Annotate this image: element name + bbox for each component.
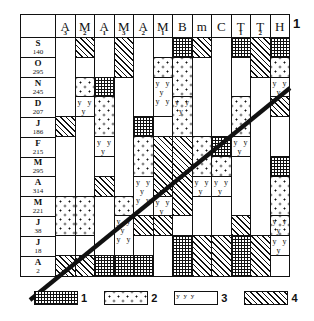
column-segment-grid: [212, 137, 231, 157]
row-label-value: 38: [35, 228, 42, 235]
column-segment-hatch: [232, 216, 251, 236]
column-segment-hatch: [271, 97, 290, 117]
column-header-m2[interactable]: M2: [76, 15, 96, 37]
column-segment-hatch: [212, 236, 231, 276]
column-segment-hatch: [76, 38, 95, 58]
row-label-letter: D: [35, 99, 42, 108]
data-column-m[interactable]: [193, 38, 213, 276]
column-header-m1[interactable]: M1: [154, 15, 174, 37]
column-segment-grid: [232, 236, 251, 276]
legend: 1234: [34, 288, 286, 308]
column-segment-grid: [232, 38, 251, 58]
data-column-a1[interactable]: [95, 38, 115, 276]
column-segment-dots: [212, 157, 231, 177]
data-column-m2[interactable]: [76, 38, 96, 276]
row-label-1[interactable]: O295: [21, 58, 55, 78]
column-header-b[interactable]: B: [173, 15, 193, 37]
row-label-2[interactable]: N245: [21, 78, 55, 98]
row-label-5[interactable]: F215: [21, 138, 55, 158]
data-column-c[interactable]: [212, 38, 232, 276]
column-segment-grid: [271, 38, 290, 58]
column-segment-hatch: [173, 137, 192, 216]
column-header-m[interactable]: m: [193, 15, 213, 37]
stratigraphic-chart: A3M2A1M3A2M1BmCT1T2H S140O295N245D207J18…: [20, 14, 290, 277]
data-column-m1[interactable]: [154, 38, 174, 276]
column-segment-hatch: [251, 236, 270, 276]
column-header-label: H: [275, 20, 284, 33]
column-segment-hatch: [154, 216, 173, 236]
column-segment-y: [76, 97, 95, 117]
column-segment-dots: [173, 58, 192, 98]
row-label-6[interactable]: M295: [21, 158, 55, 178]
data-column-h[interactable]: [271, 38, 290, 276]
row-label-8[interactable]: M221: [21, 197, 55, 217]
column-header-subscript: 3: [64, 30, 68, 37]
legend-swatch-hatch: [244, 291, 288, 305]
column-segment-blank: [95, 197, 114, 257]
legend-item-4: 4: [244, 291, 297, 305]
column-segment-ydots: [173, 97, 192, 137]
column-segment-y: [115, 216, 134, 256]
row-label-letter: J: [36, 238, 41, 247]
row-label-letter: N: [35, 79, 42, 88]
column-segment-blank: [115, 78, 134, 197]
data-column-a2[interactable]: [134, 38, 154, 276]
row-label-4[interactable]: J186: [21, 118, 55, 138]
column-segment-dots: [154, 58, 173, 78]
column-segment-blank: [232, 58, 251, 98]
column-segment-y: [134, 177, 153, 217]
legend-item-2: 2: [104, 291, 157, 305]
column-segment-y: [154, 78, 173, 118]
column-header-a2[interactable]: A2: [134, 15, 154, 37]
column-header-subscript: 2: [259, 30, 263, 37]
row-label-value: 245: [33, 89, 44, 96]
row-label-letter: A: [35, 178, 42, 187]
legend-number: 2: [151, 292, 157, 304]
row-label-value: 140: [33, 49, 44, 56]
column-header-c[interactable]: C: [212, 15, 232, 37]
column-header-subscript: 2: [83, 30, 87, 37]
column-segment-hatch: [76, 256, 95, 276]
row-label-10[interactable]: J18: [21, 237, 55, 257]
column-segment-blank: [134, 236, 153, 256]
column-header-m3[interactable]: M3: [115, 15, 135, 37]
column-header-row: A3M2A1M3A2M1BmCT1T2H: [20, 14, 290, 38]
row-label-letter: M: [34, 158, 43, 167]
data-column-a3[interactable]: [56, 38, 76, 276]
legend-item-3: 3: [174, 291, 227, 305]
row-label-value: 295: [33, 69, 44, 76]
column-segment-grid: [271, 157, 290, 177]
column-segment-blank: [56, 236, 75, 256]
column-header-h[interactable]: H: [271, 15, 290, 37]
header-corner-cell: [21, 15, 56, 37]
row-label-0[interactable]: S140: [21, 38, 55, 58]
column-segment-dots: [76, 197, 95, 237]
column-segment-blank: [95, 38, 114, 78]
column-segment-blank: [193, 58, 212, 137]
row-label-7[interactable]: A314: [21, 177, 55, 197]
column-segment-blank: [154, 38, 173, 58]
legend-item-1: 1: [34, 291, 87, 305]
legend-number: 4: [291, 292, 297, 304]
data-column-t2[interactable]: [251, 38, 271, 276]
data-column-t1[interactable]: [232, 38, 252, 276]
column-segment-hatch: [154, 137, 173, 197]
row-label-9[interactable]: J38: [21, 217, 55, 237]
column-header-a1[interactable]: A1: [95, 15, 115, 37]
data-column-b[interactable]: [173, 38, 193, 276]
chart-body: S140O295N245D207J186F215M295A314M221J38J…: [20, 38, 290, 277]
data-column-m3[interactable]: [115, 38, 135, 276]
column-segment-blank: [76, 58, 95, 78]
figure-root: A3M2A1M3A2M1BmCT1T2H S140O295N245D207J18…: [0, 0, 314, 321]
column-header-a3[interactable]: A3: [56, 15, 76, 37]
column-segment-grid: [115, 256, 134, 276]
column-segment-hatch: [193, 38, 212, 58]
row-label-11[interactable]: A2: [21, 257, 55, 276]
column-segment-grid: [95, 78, 114, 98]
row-label-value: 207: [33, 109, 44, 116]
column-segment-blank: [56, 137, 75, 197]
column-header-t1[interactable]: T1: [232, 15, 252, 37]
row-label-3[interactable]: D207: [21, 98, 55, 118]
column-header-t2[interactable]: T2: [251, 15, 271, 37]
column-segment-blank: [193, 197, 212, 237]
